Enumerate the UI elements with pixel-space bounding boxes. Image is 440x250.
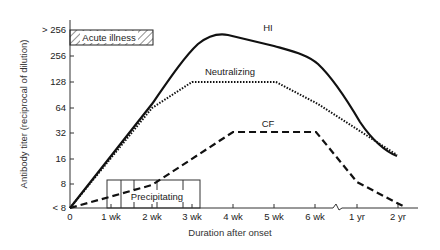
x-axis: 0 1 wk 2 wk 3 wk 4 wk 5 wk 6 wk 1 yr 2 y…: [67, 204, 418, 238]
y-tick-16: 16: [55, 153, 66, 164]
acute-illness-band: Acute illness: [70, 30, 153, 45]
x-tick-4wk: 4 wk: [223, 211, 243, 222]
y-tick-8: 8: [61, 178, 66, 189]
y-tick-64: 64: [55, 102, 66, 113]
acute-illness-label: Acute illness: [82, 32, 136, 43]
x-tick-2yr: 2 yr: [390, 211, 406, 222]
series-neutralizing-label: Neutralizing: [205, 66, 255, 77]
y-tick-128: 128: [50, 76, 66, 87]
x-axis-title: Duration after onset: [188, 227, 272, 238]
y-tick-256: 256: [50, 50, 66, 61]
y-tick-32: 32: [55, 127, 66, 138]
y-axis-title: Antibody titer (reciprocal of dilution): [18, 40, 29, 189]
series-hi-label: HI: [263, 22, 273, 33]
antibody-titer-chart: < 8 8 16 32 64 128 256 > 256 Antibody ti…: [0, 0, 440, 250]
y-tick-gt256: > 256: [42, 24, 66, 35]
x-tick-3wk: 3 wk: [182, 211, 202, 222]
x-tick-0: 0: [67, 211, 72, 222]
x-tick-6wk: 6 wk: [305, 211, 325, 222]
series-cf-label: CF: [262, 118, 275, 129]
y-tick-lt8: < 8: [53, 202, 66, 213]
precipitating-label: Precipitating: [131, 191, 183, 202]
series-hi-line: [70, 34, 397, 208]
x-tick-1yr: 1 yr: [349, 211, 365, 222]
precipitating-box: Precipitating: [107, 180, 200, 208]
x-tick-5wk: 5 wk: [264, 211, 284, 222]
y-axis: < 8 8 16 32 64 128 256 > 256 Antibody ti…: [18, 20, 74, 213]
x-tick-1wk: 1 wk: [101, 211, 121, 222]
x-tick-2wk: 2 wk: [142, 211, 162, 222]
